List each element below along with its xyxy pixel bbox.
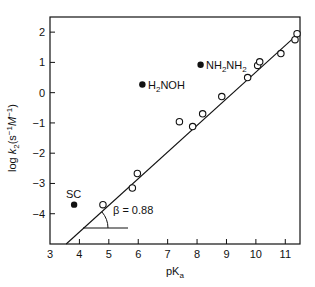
filled-point xyxy=(139,81,145,87)
nh2nh2-label: NH2NH2 xyxy=(206,59,247,74)
open-point xyxy=(244,74,250,80)
open-point xyxy=(292,37,298,43)
x-tick-label: 4 xyxy=(76,248,82,260)
x-axis-label: pKa xyxy=(166,265,184,280)
x-tick-label: 9 xyxy=(223,248,229,260)
open-point xyxy=(294,30,300,36)
plot-frame xyxy=(50,17,300,244)
x-tick-label: 6 xyxy=(135,248,141,260)
open-point xyxy=(199,111,205,117)
open-point xyxy=(257,59,263,65)
x-tick-label: 5 xyxy=(106,248,112,260)
filled-point xyxy=(197,62,203,68)
open-point xyxy=(129,185,135,191)
y-tick-label: −1 xyxy=(32,117,45,129)
sc-label: SC xyxy=(66,188,81,200)
y-axis-ticks: −4−3−2−1012 xyxy=(32,26,55,220)
x-tick-label: 11 xyxy=(280,248,291,260)
x-tick-label: 7 xyxy=(165,248,171,260)
h2noh-label: H2NOH xyxy=(148,79,185,94)
open-point xyxy=(134,170,140,176)
data-points xyxy=(71,30,300,207)
y-axis-label: log k2(s−1M−1) xyxy=(5,104,21,172)
y-tick-label: −3 xyxy=(32,177,45,189)
beta-label: β = 0.88 xyxy=(113,204,153,216)
y-tick-label: 0 xyxy=(39,87,45,99)
x-tick-label: 3 xyxy=(47,248,53,260)
open-point xyxy=(278,50,284,56)
y-tick-label: 2 xyxy=(39,26,45,38)
x-tick-label: 8 xyxy=(194,248,200,260)
y-tick-label: −2 xyxy=(32,147,45,159)
fit-line xyxy=(66,32,300,244)
beta-annotation: β = 0.88 xyxy=(83,204,153,228)
open-point xyxy=(219,93,225,99)
open-point xyxy=(100,201,106,207)
bronsted-plot: 34567891011 −4−3−2−1012 β = 0.88 SC H2NO… xyxy=(0,0,315,287)
filled-point xyxy=(71,201,77,207)
open-point xyxy=(176,119,182,125)
y-tick-label: −4 xyxy=(32,208,45,220)
open-point xyxy=(189,123,195,129)
x-axis-ticks: 34567891011 xyxy=(47,239,291,260)
x-tick-label: 10 xyxy=(250,248,262,260)
y-tick-label: 1 xyxy=(39,56,45,68)
